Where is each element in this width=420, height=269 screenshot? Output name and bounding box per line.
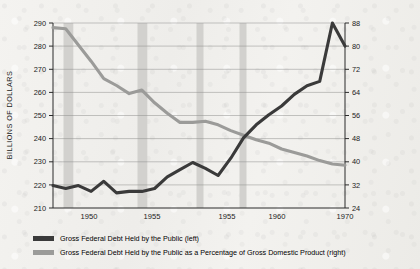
legend-swatch-dark: [33, 236, 54, 241]
right-axis-ticks: [345, 23, 349, 208]
year-label-1960: 1960: [269, 212, 286, 221]
year-label-1955b: 1955: [219, 212, 236, 221]
left-tick-260: 260: [34, 88, 46, 97]
legend-item-debt-pct-gdp: Gross Federal Debt Held by the Public as…: [33, 248, 346, 257]
y-axis-title: BILLIONS OF DOLLARS: [5, 71, 14, 159]
left-tick-280: 280: [34, 42, 46, 51]
year-label-1970: 1970: [337, 212, 354, 221]
right-axis-labels: 88 80 72 64 56 48 40 32 24: [352, 19, 360, 213]
right-tick-56: 56: [352, 111, 360, 120]
left-tick-250: 250: [34, 111, 46, 120]
left-tick-230: 230: [34, 157, 46, 166]
left-axis-labels: 290 280 270 260 250 240 230 220 210: [34, 19, 46, 213]
right-tick-32: 32: [352, 181, 360, 190]
x-axis-labels: 1950 1955 1955 1960 1970: [81, 212, 354, 221]
right-tick-64: 64: [352, 88, 360, 97]
left-tick-270: 270: [34, 65, 46, 74]
year-label-1950: 1950: [81, 212, 98, 221]
federal-debt-chart: 290 280 270 260 250 240 230 220 210 88 8…: [0, 0, 420, 269]
legend-label-debt-billions: Gross Federal Debt Held by the Public (l…: [60, 234, 199, 243]
left-tick-290: 290: [34, 19, 46, 28]
right-tick-72: 72: [352, 65, 360, 74]
legend-swatch-gray: [33, 250, 54, 255]
left-axis-ticks: [49, 23, 53, 208]
right-tick-48: 48: [352, 134, 360, 143]
left-tick-220: 220: [34, 181, 46, 190]
right-tick-80: 80: [352, 42, 360, 51]
legend-label-debt-pct-gdp: Gross Federal Debt Held by the Public as…: [60, 248, 346, 257]
right-tick-40: 40: [352, 157, 360, 166]
left-tick-210: 210: [34, 204, 46, 213]
right-tick-88: 88: [352, 19, 360, 28]
chart-svg: 290 280 270 260 250 240 230 220 210 88 8…: [0, 0, 420, 269]
year-label-1955a: 1955: [144, 212, 161, 221]
chart-legend: Gross Federal Debt Held by the Public (l…: [33, 234, 346, 257]
left-tick-240: 240: [34, 134, 46, 143]
legend-item-debt-billions: Gross Federal Debt Held by the Public (l…: [33, 234, 346, 243]
